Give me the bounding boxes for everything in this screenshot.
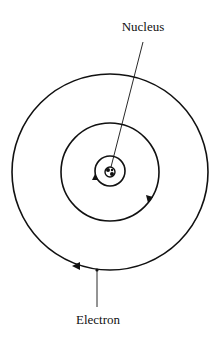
- electron-label: Electron: [76, 312, 121, 327]
- nucleus-label: Nucleus: [122, 19, 165, 34]
- nucleus: [105, 167, 115, 177]
- atom-diagram: Nucleus Electron: [0, 0, 224, 339]
- nucleus-leader-line: [111, 42, 143, 167]
